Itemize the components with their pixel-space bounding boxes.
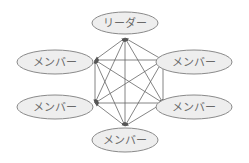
node-member-bottom: メンバー (92, 128, 158, 152)
node-label: リーダー (103, 16, 147, 30)
network-diagram: リーダーメンバーメンバーメンバーメンバーメンバー (0, 0, 249, 163)
edge-arrow (125, 38, 163, 60)
node-label: メンバー (33, 101, 77, 114)
node-label: メンバー (103, 134, 147, 147)
node-member-top-right: メンバー (156, 50, 232, 74)
edges (95, 38, 163, 126)
edge-arrow (95, 38, 125, 60)
node-member-bottom-left: メンバー (17, 95, 93, 119)
node-label: メンバー (172, 101, 216, 114)
node-member-top-left: メンバー (17, 50, 93, 74)
nodes: リーダーメンバーメンバーメンバーメンバーメンバー (17, 12, 232, 152)
node-label: メンバー (172, 56, 216, 69)
edge-arrow (95, 103, 125, 126)
node-label: メンバー (33, 56, 77, 69)
node-member-bottom-right: メンバー (156, 95, 232, 119)
node-leader: リーダー (92, 12, 158, 34)
